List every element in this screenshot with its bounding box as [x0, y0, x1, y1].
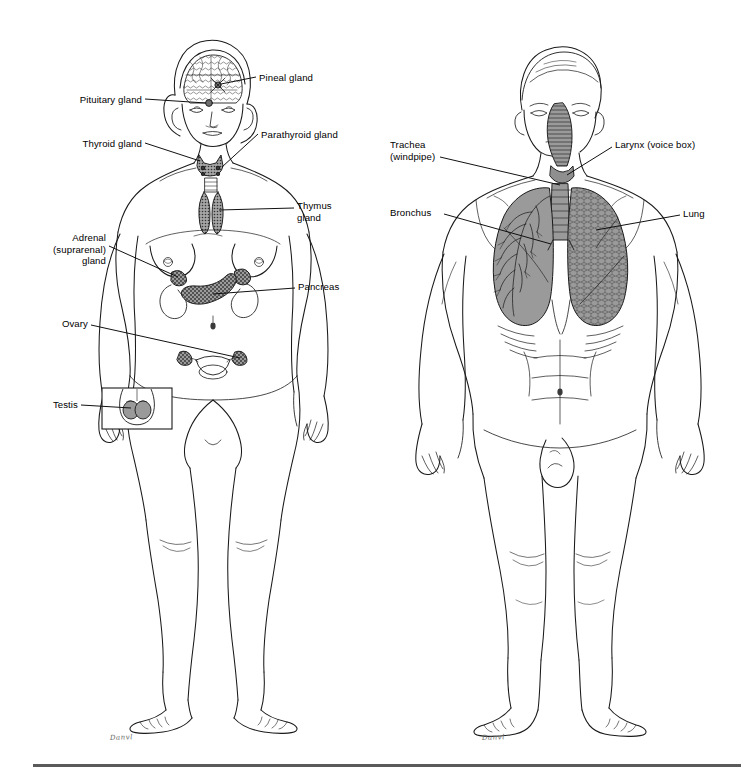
label-thymus-gland: Thymus gland	[297, 200, 332, 223]
leader-thymus	[219, 208, 294, 210]
label-ovary: Ovary	[8, 318, 88, 330]
bottom-divider-rule	[33, 764, 741, 767]
testis-inset-box	[102, 388, 172, 429]
label-lung: Lung	[683, 208, 705, 220]
female-body-illustration: Danvl	[0, 0, 380, 754]
leader-trachea	[440, 157, 560, 185]
label-trachea-windpipe: Trachea (windpipe)	[390, 139, 435, 162]
label-pancreas: Pancreas	[298, 281, 339, 293]
figure-endocrine-system: Danvl Pituitary gland Pineal gland Thyro…	[0, 0, 380, 754]
leader-thyroid	[145, 143, 200, 161]
label-adrenal-gland: Adrenal (suprarenal) gland	[1, 232, 106, 267]
label-pineal-gland: Pineal gland	[259, 72, 313, 84]
label-bronchus: Bronchus	[390, 207, 431, 219]
label-testis: Testis	[6, 399, 78, 411]
leader-ovary	[91, 325, 240, 358]
label-larynx-voice-box: Larynx (voice box)	[615, 139, 695, 151]
diagram-page: Danvl Pituitary gland Pineal gland Thyro…	[0, 0, 754, 774]
artist-signature: Danvl	[481, 733, 505, 742]
label-pituitary-gland: Pituitary gland	[0, 94, 142, 106]
label-parathyroid-gland: Parathyroid gland	[261, 129, 338, 141]
artist-signature: Danvl	[109, 733, 133, 742]
label-thyroid-gland: Thyroid gland	[0, 138, 142, 150]
figure-respiratory-system: Danvl Trachea (windpipe) Larynx (voice b…	[374, 0, 754, 754]
male-body-illustration: Danvl	[374, 0, 754, 754]
leader-adrenal	[109, 246, 178, 277]
